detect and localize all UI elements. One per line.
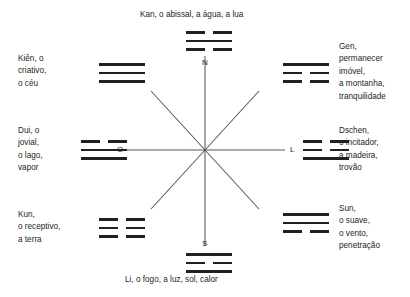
trigram-line-broken [99, 225, 145, 234]
trigram-kan [186, 29, 232, 55]
yin-bar-l [283, 80, 302, 83]
yang-bar [283, 63, 329, 66]
trigram-line-solid [99, 78, 145, 87]
trigram-kun [99, 216, 145, 242]
trigram-li [186, 251, 232, 277]
trigram-gen [283, 61, 329, 87]
trigram-line-solid [283, 211, 329, 220]
trigram-line-solid [186, 38, 232, 47]
trigram-line-broken [283, 228, 329, 237]
label-line: Kiên, o [18, 53, 46, 65]
trigram-line-solid [186, 251, 232, 260]
yin-bar-r [126, 218, 145, 221]
trigram-line-broken [81, 138, 127, 147]
yang-bar [283, 213, 329, 216]
trigram-line-broken [186, 29, 232, 38]
label-line: criativo, [18, 65, 46, 77]
trigram-sun [283, 211, 329, 237]
yang-bar [186, 40, 232, 43]
label-line: trovão [339, 162, 379, 174]
trigram-line-solid [283, 61, 329, 70]
cardinal-east: L [290, 146, 294, 154]
label-line: o vento, [339, 228, 380, 240]
trigram-line-solid [99, 70, 145, 79]
cardinal-north: N [202, 59, 208, 67]
yang-bar [81, 149, 127, 152]
label-line: permanecer [339, 53, 386, 65]
bottom-caption: Li, o fogo, a luz, sol, calor [125, 276, 218, 285]
label-line: o receptivo, [18, 221, 60, 233]
yang-bar [99, 63, 145, 66]
label-line: vapor [18, 162, 43, 174]
yang-bar [186, 253, 232, 256]
label-line: penetração [339, 240, 380, 252]
trigram-line-broken [283, 70, 329, 79]
yin-bar-r [310, 72, 329, 75]
bagua-diagram: Kan, o abissal, a água, a lua N S L O Ki… [0, 0, 410, 297]
label-kien: Kiên, ocriativo,o céu [18, 53, 46, 90]
yin-bar-l [283, 230, 302, 233]
trigram-line-solid [81, 147, 127, 156]
yin-bar-l [303, 140, 322, 143]
yin-bar-l [186, 48, 205, 51]
yin-bar-l [81, 140, 100, 143]
label-gen: Gen,permanecerimóvel,a montanha,tranquil… [339, 41, 386, 103]
yin-bar-l [99, 235, 118, 238]
trigram-line-broken [186, 46, 232, 55]
yin-bar-r [126, 235, 145, 238]
trigram-line-broken [283, 78, 329, 87]
label-line: o céu [18, 78, 46, 90]
yang-bar [186, 270, 232, 273]
trigram-line-broken [99, 216, 145, 225]
yin-bar-r [310, 80, 329, 83]
yin-bar-r [108, 140, 127, 143]
label-line: a terra [18, 234, 60, 246]
label-line: a madeira, [339, 150, 379, 162]
yin-bar-r [213, 262, 232, 265]
label-line: Kun, [18, 209, 60, 221]
label-line: o suave, [339, 215, 380, 227]
yang-bar [99, 72, 145, 75]
trigram-line-broken [186, 260, 232, 269]
yin-bar-l [186, 262, 205, 265]
label-line: Sun, [339, 203, 380, 215]
yin-bar-l [303, 149, 322, 152]
trigram-line-solid [99, 61, 145, 70]
label-line: o lago, [18, 150, 43, 162]
trigram-line-solid [81, 155, 127, 164]
trigram-kien [99, 61, 145, 87]
yin-bar-r [310, 230, 329, 233]
label-dui: Dui, ojovial,o lago,vapor [18, 125, 43, 175]
yin-bar-r [126, 227, 145, 230]
yin-bar-l [283, 72, 302, 75]
label-sun: Sun,o suave,o vento,penetração [339, 203, 380, 253]
cardinal-south: S [202, 240, 207, 248]
yang-bar [283, 222, 329, 225]
label-line: tranquilidade [339, 91, 386, 103]
label-line: imóvel, [339, 66, 386, 78]
label-dschen: Dschen,o incitador,a madeira,trovão [339, 125, 379, 175]
yin-bar-l [186, 31, 205, 34]
trigram-dui [81, 138, 127, 164]
yin-bar-l [99, 218, 118, 221]
yang-bar [99, 80, 145, 83]
label-line: Dschen, [339, 125, 379, 137]
label-line: jovial, [18, 137, 43, 149]
label-line: Gen, [339, 41, 386, 53]
yin-bar-r [213, 48, 232, 51]
label-kun: Kun,o receptivo,a terra [18, 209, 60, 246]
trigram-line-solid [283, 220, 329, 229]
yang-bar [81, 157, 127, 160]
label-line: o incitador, [339, 137, 379, 149]
yin-bar-r [213, 31, 232, 34]
trigram-line-broken [99, 233, 145, 242]
yin-bar-l [99, 227, 118, 230]
label-line: a montanha, [339, 78, 386, 90]
label-line: Dui, o [18, 125, 43, 137]
